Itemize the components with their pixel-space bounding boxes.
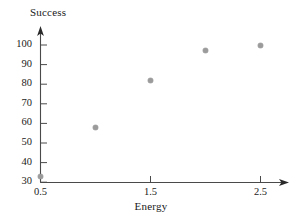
data-point <box>38 174 43 179</box>
x-tick-label-0-5: 0.5 <box>26 186 56 197</box>
data-point <box>148 78 153 83</box>
y-tick-label-40: 40 <box>8 156 32 167</box>
y-tick-label-70: 70 <box>8 97 32 108</box>
x-tick-label-2-5: 2.5 <box>246 186 276 197</box>
y-tick-label-50: 50 <box>8 136 32 147</box>
y-tick-label-80: 80 <box>8 77 32 88</box>
y-tick-label-90: 90 <box>8 58 32 69</box>
y-axis-title: Success <box>30 6 66 18</box>
y-tick-label-60: 60 <box>8 116 32 127</box>
y-tick-label-100: 100 <box>8 38 32 49</box>
scatter-chart: Success Energy 100 90 80 70 60 50 40 30 … <box>0 0 302 221</box>
data-point <box>93 125 98 130</box>
x-tick-label-1-5: 1.5 <box>136 186 166 197</box>
data-point <box>258 43 263 48</box>
x-axis-title: Energy <box>0 200 302 212</box>
y-tick-label-30: 30 <box>8 175 32 186</box>
